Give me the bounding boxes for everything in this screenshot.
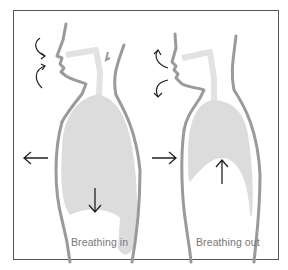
arrow-up-icon xyxy=(216,160,228,184)
exhale-arrow-bottom-icon xyxy=(156,80,168,97)
lungs-deflated xyxy=(188,100,253,216)
caption-breathing-out: Breathing out xyxy=(196,236,260,248)
exhale-arrow-top-icon xyxy=(156,50,168,68)
panel-breathing-in xyxy=(24,24,140,262)
inhale-arrow-bottom-icon xyxy=(36,66,45,88)
lungs-expanded xyxy=(61,95,137,254)
arrow-outward-icon xyxy=(24,152,48,164)
ear xyxy=(106,52,110,60)
inhale-arrow-top-icon xyxy=(36,38,45,56)
arrow-inward-icon xyxy=(152,152,176,164)
breathing-diagram xyxy=(0,0,288,270)
panel-breathing-out xyxy=(152,34,260,262)
caption-breathing-in: Breathing in xyxy=(71,236,128,248)
